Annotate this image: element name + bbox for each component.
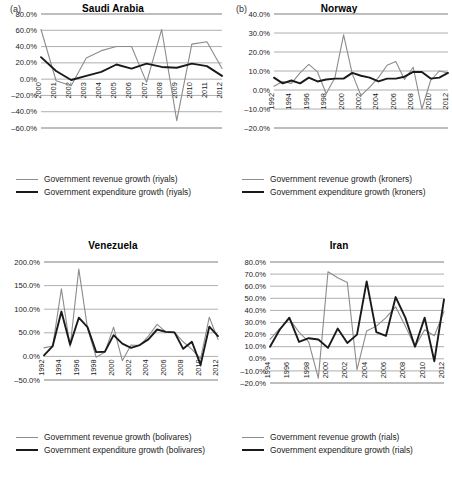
x-axis-tick-label: 1998 [302,362,311,378]
panel-iran: Iran –20.0%–10.0%0.0%10.0%20.0%30.0%40.0… [226,232,452,486]
x-axis-tick-label: 2007 [140,82,149,98]
x-axis-tick-label: 1994 [284,93,293,109]
y-axis-tick-label: 20.0% [244,330,266,339]
y-axis-tick-label: –60.0% [11,124,37,133]
x-axis-tick-label: 2000 [107,359,116,375]
x-axis-tick-label: 2001 [49,82,58,98]
legend-item-expenditure: Government expenditure growth (rials) [226,445,452,455]
legend-label-expenditure: Government expenditure growth (riyals) [44,187,191,197]
x-axis-tick-label: 2002 [124,359,133,375]
panel-venezuela: Venezuela –50.0%0.0%50.0%100.0%150.0%200… [0,232,226,486]
x-axis-tick-label: 2004 [141,359,150,375]
x-axis-tick-label: 2008 [406,93,415,109]
panel-norway: (b) Norway –20.0%–10.0%0.0%10.0%20.0%30.… [226,0,452,232]
x-axis-tick-label: 1996 [302,93,311,109]
y-axis-tick-label: 80.0% [15,10,37,19]
x-axis-tick-label: 2004 [360,362,369,378]
x-axis-tick-label: 1994 [54,359,63,375]
plot-area-saudi-arabia: –60.0%–40.0%–20.0%0.0%20.0%40.0%60.0%80.… [0,0,226,170]
x-axis-tick-label: 2012 [437,362,446,378]
x-axis-tick-label: 2008 [155,82,164,98]
x-axis-tick-label: 2000 [337,93,346,109]
y-axis-tick-label: –20.0% [240,379,266,388]
y-axis-tick-label: 70.0% [244,270,266,279]
y-axis-tick-label: 60.0% [244,282,266,291]
series-line-revenue [41,29,222,120]
legend-label-revenue: Government revenue growth (riyals) [44,174,178,184]
y-axis-tick-label: 10.0% [248,67,270,76]
x-axis-tick-label: 2000 [321,362,330,378]
y-axis-tick-label: 30.0% [248,29,270,38]
x-axis-tick-label: 1996 [282,362,291,378]
legend-line-icon-expenditure [16,449,38,451]
legend-line-icon-revenue [242,437,264,438]
legend-item-revenue: Government revenue growth (rials) [226,432,452,442]
y-axis-tick-label: 30.0% [244,318,266,327]
legend-line-icon-expenditure [242,191,264,193]
legend-label-revenue: Government revenue growth (bolivares) [44,432,192,442]
x-axis-tick-label: 2006 [379,362,388,378]
x-axis-tick-label: 2003 [79,82,88,98]
x-axis-tick-label: 1996 [72,359,81,375]
plot-area-norway: –20.0%–10.0%0.0%10.0%20.0%30.0%40.0%1992… [226,0,452,170]
x-axis-tick-label: 2012 [211,359,220,375]
plot-area-venezuela: –50.0%0.0%50.0%100.0%150.0%200.0%1992199… [0,250,226,430]
legend-item-revenue: Government revenue growth (kroners) [226,174,452,184]
chart-svg-saudi-arabia: –60.0%–40.0%–20.0%0.0%20.0%40.0%60.0%80.… [0,0,226,170]
x-axis-tick-label: 1998 [89,359,98,375]
x-axis-tick-label: 2010 [424,93,433,109]
chart-svg-iran: –20.0%–10.0%0.0%10.0%20.0%30.0%40.0%50.0… [226,250,452,430]
x-axis-tick-label: 2010 [418,362,427,378]
y-axis-tick-label: –20.0% [244,124,270,133]
y-axis-tick-label: 50.0% [18,328,40,337]
series-line-expenditure [270,281,444,361]
chart-svg-venezuela: –50.0%0.0%50.0%100.0%150.0%200.0%1992199… [0,250,226,430]
x-axis-tick-label: 2012 [441,93,450,109]
x-axis-tick-label: 1992 [267,93,276,109]
y-axis-tick-label: 40.0% [15,42,37,51]
x-axis-tick-label: 2012 [215,82,224,98]
y-axis-tick-label: 40.0% [248,10,270,19]
legend-line-icon-revenue [16,437,38,438]
legend-label-expenditure: Government expenditure growth (kroners) [270,187,425,197]
legend-line-icon-revenue [16,179,38,180]
y-axis-tick-label: 60.0% [15,26,37,35]
x-axis-tick-label: 1998 [319,93,328,109]
x-axis-tick-label: 2002 [340,362,349,378]
legend-saudi-arabia: Government revenue growth (riyals) Gover… [0,174,226,200]
x-axis-tick-label: 2004 [94,82,103,98]
x-axis-tick-label: 2010 [185,82,194,98]
series-line-expenditure [44,312,218,365]
legend-iran: Government revenue growth (rials) Govern… [226,432,452,458]
figure-panel-grid: (a) Saudi Arabia –60.0%–40.0%–20.0%0.0%2… [0,0,452,486]
y-axis-tick-label: 40.0% [244,306,266,315]
y-axis-tick-label: 200.0% [14,258,40,267]
x-axis-tick-label: 2000 [34,82,43,98]
y-axis-tick-label: 80.0% [244,258,266,267]
legend-venezuela: Government revenue growth (bolivares) Go… [0,432,226,458]
plot-area-iran: –20.0%–10.0%0.0%10.0%20.0%30.0%40.0%50.0… [226,250,452,430]
y-axis-tick-label: 150.0% [14,281,40,290]
x-axis-tick-label: 2006 [159,359,168,375]
y-axis-tick-label: –50.0% [14,376,40,385]
x-axis-tick-label: 1992 [37,359,46,375]
legend-line-icon-revenue [242,179,264,180]
legend-item-expenditure: Government expenditure growth (riyals) [0,187,226,197]
y-axis-tick-label: 50.0% [244,294,266,303]
legend-item-revenue: Government revenue growth (bolivares) [0,432,226,442]
legend-line-icon-expenditure [242,449,264,451]
y-axis-tick-label: –40.0% [11,107,37,116]
legend-norway: Government revenue growth (kroners) Gove… [226,174,452,200]
y-axis-tick-label: 100.0% [14,305,40,314]
x-axis-tick-label: 2011 [200,82,209,98]
legend-label-expenditure: Government expenditure growth (bolivares… [44,445,205,455]
series-line-expenditure [41,57,222,80]
legend-item-expenditure: Government expenditure growth (kroners) [226,187,452,197]
legend-item-revenue: Government revenue growth (riyals) [0,174,226,184]
panel-saudi-arabia: (a) Saudi Arabia –60.0%–40.0%–20.0%0.0%2… [0,0,226,232]
y-axis-tick-label: 10.0% [244,342,266,351]
x-axis-tick-label: 2006 [389,93,398,109]
legend-item-expenditure: Government expenditure growth (bolivares… [0,445,226,455]
legend-line-icon-expenditure [16,191,38,193]
legend-label-expenditure: Government expenditure growth (rials) [270,445,413,455]
